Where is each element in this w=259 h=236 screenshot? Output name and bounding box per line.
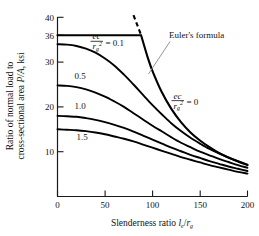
curve-ec-r2-0p1 [58,44,248,165]
y-tick-label-36: 36 [45,31,55,41]
x-tick-label-200: 200 [241,200,255,210]
x-axis-ticks [58,191,248,197]
curve-ec-r2-0p5 [58,85,248,167]
euler-formula-label: Euler's formula [169,30,224,40]
euler-leader-line [149,42,171,75]
curve-label-1p5: 1.5 [76,132,88,142]
curve-label-0p5: 0.5 [74,71,86,81]
curve-label-1p0: 1.0 [74,101,86,111]
y-axis-tick-labels: 40 36 30 20 10 [45,13,55,157]
chart-canvas: 40 36 30 20 10 0 50 100 150 200 [0,0,259,236]
y-tick-label-20: 20 [45,102,55,112]
y-axis-title: Ratio of normal load to cross-sectional … [5,52,26,159]
column-buckling-chart: 40 36 30 20 10 0 50 100 150 200 [0,0,259,236]
frac-denominator-0p1: rg2 [93,41,103,52]
ratio-label-0-group: ec rg2 = 0 [172,91,199,112]
frac-numerator-0p1: ec [93,31,101,41]
frac-denominator-0: rg2 [174,100,184,111]
x-tick-label-50: 50 [101,200,111,210]
y-tick-label-40: 40 [45,13,55,23]
curve-ec-r2-1p0 [58,116,248,171]
y-tick-label-10: 10 [45,147,55,157]
x-axis-title: Slenderness ratio le/rg [111,218,193,229]
curve-ec-r2-0 [58,35,248,165]
y-axis-title-line1: Ratio of normal load to [5,61,15,150]
y-axis-title-line2: cross-sectional area P/A, ksi [16,52,26,159]
x-axis-tick-labels: 0 50 100 150 200 [55,200,255,210]
ratio-equals-0p1: = 0.1 [106,38,125,48]
x-tick-label-100: 100 [146,200,160,210]
ratio-equals-0: = 0 [187,97,199,107]
frac-numerator-0: ec [174,91,182,101]
x-tick-label-0: 0 [55,200,60,210]
y-tick-label-30: 30 [45,57,55,67]
x-tick-label-150: 150 [193,200,207,210]
euler-dashed-extension [134,15,142,35]
